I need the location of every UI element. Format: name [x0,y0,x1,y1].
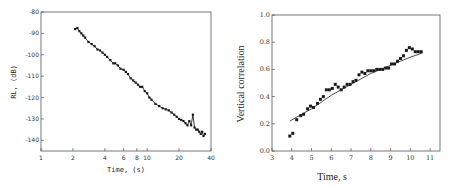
x-tick-label: 6 [329,154,333,162]
data-point [334,83,337,86]
x-tick-label: 10 [143,154,151,161]
data-point [84,37,86,39]
x-tick-label: 1 [39,154,43,161]
plot-frame [41,12,211,151]
data-point [170,111,172,113]
data-point [82,34,84,36]
data-point [291,132,294,135]
x-axis-label: Time, (s) [107,166,145,174]
data-point [139,86,141,88]
data-point [337,86,340,89]
data-point [198,131,200,133]
figure: -80-90-100-110-120-130-140 12468102040 T… [0,0,454,187]
y-axis-label: Vertical correlation [235,46,246,123]
y-tick-label: -120 [25,94,39,101]
data-point [204,133,206,135]
data-point [104,54,106,56]
data-point [186,124,188,126]
data-point [165,108,167,110]
x-tick-label: 4 [103,154,107,161]
data-point [360,71,363,74]
data-point [408,46,411,49]
data-point [200,133,202,135]
y-tick-label: 0.2 [260,120,270,128]
data-point [417,50,420,53]
data-point [201,131,203,133]
x-tick-label: 5 [309,154,313,162]
data-point [309,105,312,108]
data-point [80,32,82,34]
data-point [91,43,93,45]
data-point [78,30,80,32]
x-tick-label: 20 [175,154,183,161]
data-point [402,54,405,57]
data-point [162,107,164,109]
data-point [188,120,190,122]
data-point [154,103,156,105]
data-point [150,99,152,101]
rl-vs-time-chart: -80-90-100-110-120-130-140 12468102040 T… [10,8,215,174]
data-point [168,109,170,111]
x-tick-label: 2 [71,154,75,161]
data-point [178,118,180,120]
data-point [357,73,360,76]
data-point [366,69,369,72]
data-point [135,81,137,83]
data-point [130,77,132,79]
data-point [87,41,89,43]
y-tick-label: 1.0 [260,11,270,19]
x-tick-label: 10 [406,154,414,162]
data-point [114,62,116,64]
data-point [190,124,192,126]
x-tick-label: 40 [207,154,215,161]
data-point [182,120,184,122]
data-point [94,45,96,47]
data-point [202,135,204,137]
data-point [319,98,322,101]
data-point [414,50,417,53]
data-point [158,105,160,107]
data-point [184,122,186,124]
y-tick-label: -90 [29,29,39,36]
data-point [144,90,146,92]
y-tick-label: -110 [25,72,39,79]
data-point [127,73,129,75]
data-point [96,48,98,50]
x-tick-label: 8 [135,154,139,161]
data-point [411,48,414,51]
data-point [295,118,298,121]
x-tick-label: 7 [349,154,353,162]
y-tick-label: 0.6 [260,65,270,73]
data-point [132,79,134,81]
data-point [117,64,119,66]
y-tick-label: 0.0 [260,147,270,155]
data-point [101,52,103,54]
y-tick-label: -130 [25,115,39,122]
data-point [399,57,402,60]
data-point [331,87,334,90]
data-point [176,116,178,118]
data-point [119,68,121,70]
data-point [109,59,111,61]
data-point [137,84,139,86]
data-point [99,49,101,51]
data-point [192,114,194,116]
vertical-correlation-chart: 0.00.20.40.60.81.0 34567891011 Time, s V… [235,11,440,182]
x-tick-label: 8 [369,154,373,162]
data-point [328,88,331,91]
x-tick-label: 9 [389,154,393,162]
y-tick-label: -140 [25,136,39,143]
data-point [122,69,124,71]
x-tick-label: 3 [270,154,274,162]
data-point [173,114,175,116]
data-point [74,28,76,30]
y-tick-label: 0.8 [260,38,270,46]
data-point [363,72,366,75]
y-tick-label: -100 [25,51,39,58]
data-point [76,27,78,29]
data-point [322,95,325,98]
x-tick-label: 6 [122,154,126,161]
data-point [288,135,291,138]
x-axis-label: Time, s [317,171,347,182]
data-point [125,71,127,73]
